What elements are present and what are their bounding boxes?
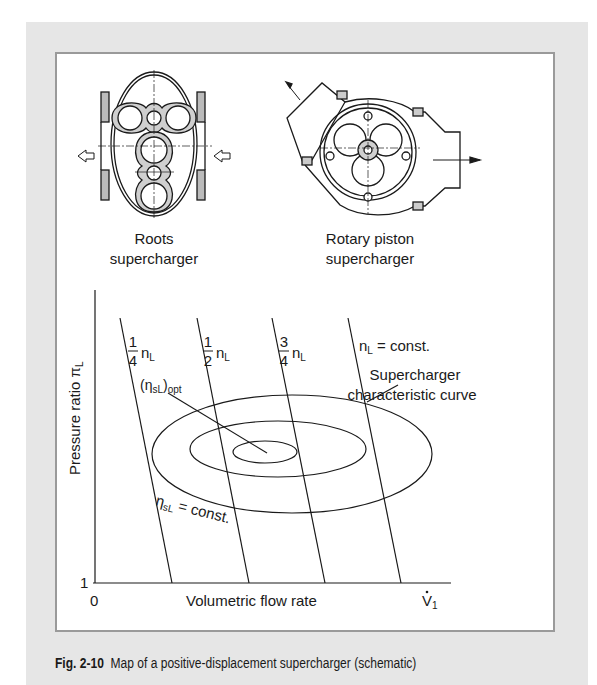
y-axis-label: Pressure ratio πL xyxy=(66,361,85,475)
efficiency-contour-outer xyxy=(152,395,432,513)
caption-text: Map of a positive-displacement superchar… xyxy=(111,655,417,671)
optimum-leader xyxy=(168,393,267,453)
nL-quarter: nL xyxy=(141,344,155,363)
frac-den-quarter: 4 xyxy=(129,352,137,369)
supercharger-map-chart xyxy=(93,290,451,583)
frac-num-half: 1 xyxy=(204,333,212,350)
frac-num-quarter: 1 xyxy=(129,333,137,350)
figure-caption: Fig. 2-10 Map of a positive-displacement… xyxy=(55,655,416,671)
efficiency-contour-middle xyxy=(190,421,366,477)
rotary-piston-supercharger-illustration xyxy=(286,82,480,215)
rotary-label-line1: Rotary piston xyxy=(326,230,414,247)
y-origin-label: 1 xyxy=(80,574,88,591)
nL-half: nL xyxy=(216,344,230,363)
roots-supercharger-illustration xyxy=(78,70,230,220)
frac-num-three-quarter: 3 xyxy=(280,333,288,350)
caption-number: Fig. 2-10 xyxy=(55,655,104,671)
frac-den-half: 2 xyxy=(204,352,212,369)
roots-label-line2: supercharger xyxy=(110,250,198,267)
speed-line-labels: 1 4 nL 1 2 nL 3 4 nL nL = const. xyxy=(128,333,430,369)
speed-line-full xyxy=(348,318,401,583)
frac-den-three-quarter: 4 xyxy=(280,352,288,369)
efficiency-contour-label: ηsL = const. xyxy=(154,491,232,528)
nL-three-quarter: nL xyxy=(292,344,306,363)
characteristic-curve-label-line1: Supercharger xyxy=(370,366,461,383)
rotary-label-line2: supercharger xyxy=(326,250,414,267)
x-axis-label: Volumetric flow rate xyxy=(186,592,317,609)
figure-drawing: Roots supercharger Rotary piston superch… xyxy=(0,0,597,685)
x-end-label: V1 xyxy=(422,592,438,611)
x-origin-label: 0 xyxy=(90,592,98,609)
optimum-efficiency-label: (ηsL)opt xyxy=(140,377,182,395)
nL-const-label: nL = const. xyxy=(359,337,430,356)
flow-rate-dot xyxy=(426,591,429,594)
roots-label-line1: Roots xyxy=(134,230,173,247)
characteristic-curve-label-line2: characteristic curve xyxy=(347,386,476,403)
